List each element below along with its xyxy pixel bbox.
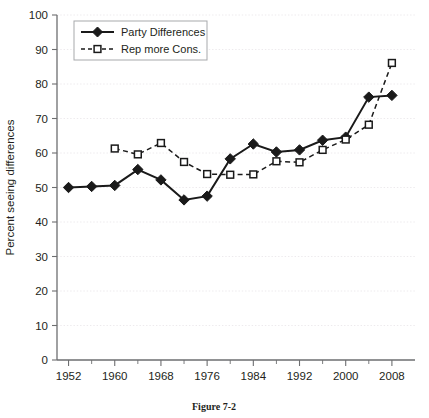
figure-caption: Figure 7-2 <box>192 401 236 412</box>
y-tick-label: 90 <box>35 44 48 56</box>
data-point-square <box>250 171 257 178</box>
y-tick-label: 50 <box>35 182 48 194</box>
y-axis-title: Percent seeing differences <box>4 119 16 255</box>
data-point-square <box>273 158 280 165</box>
legend: Party DifferencesRep more Cons. <box>74 21 207 60</box>
data-point-square <box>296 159 303 166</box>
x-tick-label: 1984 <box>241 370 267 382</box>
y-tick-label: 70 <box>35 113 48 125</box>
y-tick-label: 30 <box>35 251 48 263</box>
x-tick-label: 1992 <box>287 370 313 382</box>
legend-label: Party Differences <box>121 26 206 38</box>
data-point-square <box>227 171 234 178</box>
chart-background <box>0 0 429 418</box>
x-tick-label: 1976 <box>194 370 220 382</box>
x-tick-label: 1960 <box>102 370 128 382</box>
legend-label: Rep more Cons. <box>121 43 201 55</box>
y-axis-title-label: Percent seeing differences <box>4 119 16 255</box>
data-point-square <box>365 121 372 128</box>
data-point-square <box>342 136 349 143</box>
x-tick-label: 1968 <box>148 370 174 382</box>
y-tick-label: 40 <box>35 216 48 228</box>
y-tick-label: 10 <box>35 320 48 332</box>
y-tick-label: 100 <box>29 9 48 21</box>
y-tick-label: 80 <box>35 78 48 90</box>
data-point-square <box>134 151 141 158</box>
figure-caption-label: Figure 7-2 <box>192 401 236 412</box>
x-tick-label: 2008 <box>379 370 405 382</box>
data-point-square <box>389 60 396 67</box>
line-chart: 0102030405060708090100195219601968197619… <box>0 0 429 418</box>
data-point-square <box>111 145 118 152</box>
data-point-square <box>158 140 165 147</box>
y-tick-label: 0 <box>42 354 48 366</box>
legend-marker-square <box>94 46 101 53</box>
data-point-square <box>204 171 211 178</box>
data-point-square <box>181 159 188 166</box>
figure-container: 0102030405060708090100195219601968197619… <box>0 0 429 418</box>
x-tick-label: 1952 <box>56 370 82 382</box>
y-tick-label: 60 <box>35 147 48 159</box>
y-tick-label: 20 <box>35 285 48 297</box>
data-point-square <box>319 146 326 153</box>
x-tick-label: 2000 <box>333 370 359 382</box>
